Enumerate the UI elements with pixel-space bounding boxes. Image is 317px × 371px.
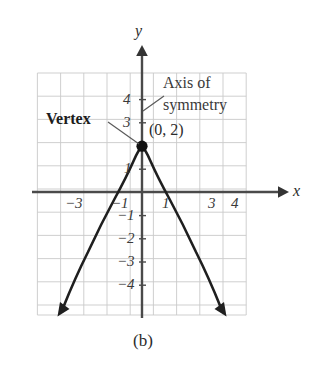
vertex-annotation-label: Vertex	[46, 110, 91, 128]
parabola-figure	[0, 0, 317, 371]
x-tick-label-neg3: −3	[65, 195, 83, 212]
axis-of-symmetry-label-line1: Axis of	[163, 74, 211, 92]
y-tick-label-neg4: −4	[117, 276, 135, 293]
y-tick-label-neg3: −3	[117, 253, 135, 270]
vertex-point	[136, 141, 147, 152]
figure-caption: (b)	[133, 331, 153, 351]
y-axis-arrowhead	[136, 45, 148, 56]
x-axis-label: x	[293, 182, 300, 200]
y-tick-label-1: 1	[124, 160, 132, 177]
y-tick-label-neg2: −2	[117, 230, 135, 247]
vertex-coordinate-label: (0, 2)	[149, 121, 184, 139]
axis-of-symmetry-label-line2: symmetry	[163, 96, 227, 114]
x-tick-label-4: 4	[231, 195, 239, 212]
y-tick-label-3: 3	[123, 114, 131, 131]
y-axis-label: y	[135, 22, 142, 40]
x-axis-arrowhead	[278, 186, 289, 198]
x-tick-label-3: 3	[208, 195, 216, 212]
x-tick-label-1: 1	[162, 195, 170, 212]
figure-page: y x 4 3 1 −1 −2 −3 −4 −3 −1 1 3 4 Vertex…	[0, 0, 317, 371]
y-tick-label-4: 4	[123, 91, 131, 108]
x-tick-label-neg1: −1	[111, 195, 129, 212]
